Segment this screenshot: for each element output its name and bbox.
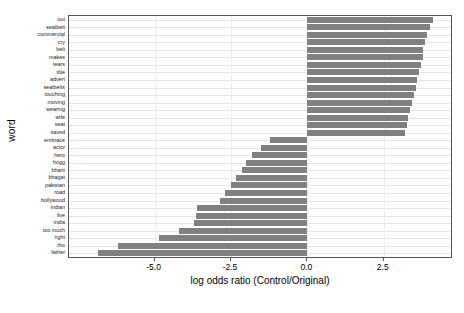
x-axis-tick-label: 2.5: [377, 262, 389, 272]
y-axis-tick-label: embrace: [18, 138, 68, 143]
y-axis-tick-label: advert: [18, 77, 68, 82]
y-axis-title-text: word: [6, 119, 17, 141]
y-axis-tick-label: tears: [18, 62, 68, 67]
bar: [246, 160, 308, 166]
bar: [236, 175, 307, 181]
y-axis-tick-label: bhagat: [18, 175, 68, 180]
y-axis-tick-label: hogg: [18, 160, 68, 165]
y-axis-tick-label: touching: [18, 92, 68, 97]
bar: [307, 100, 412, 106]
grid-line-vertical: [155, 16, 156, 257]
bar: [194, 220, 308, 226]
y-axis-tick-label: makes: [18, 55, 68, 60]
grid-line-horizontal: [69, 140, 451, 141]
bar: [307, 92, 413, 98]
y-axis-tick-label: hero: [18, 153, 68, 158]
y-axis-tick-label: wife: [18, 115, 68, 120]
bar: [307, 32, 427, 38]
y-axis-tick-label: rho: [18, 243, 68, 248]
bar: [307, 54, 423, 60]
bar: [220, 198, 307, 204]
x-axis-tick-mark: [383, 258, 384, 261]
bar: [242, 167, 307, 173]
bar: [307, 122, 407, 128]
y-axis-tick-label: father: [18, 250, 68, 255]
y-axis-tick-label: title: [18, 70, 68, 75]
x-axis-tick-mark: [230, 258, 231, 261]
y-axis-tick-label: actor: [18, 145, 68, 150]
y-axis-tick-label: cry: [18, 40, 68, 45]
bar: [231, 182, 307, 188]
bar: [307, 24, 430, 30]
y-axis-tick-labels: outseatbeltcommercialcrybeltmakestearsti…: [18, 17, 68, 256]
y-axis-tick-label: right: [18, 235, 68, 240]
x-axis-tick-mark: [154, 258, 155, 261]
bar: [98, 250, 307, 256]
bar: [307, 17, 433, 23]
bar: [196, 213, 308, 219]
bar: [252, 152, 308, 158]
y-axis-tick-label: commercial: [18, 32, 68, 37]
y-axis-tick-label: belt: [18, 47, 68, 52]
y-axis-tick-label: bharti: [18, 168, 68, 173]
x-axis-tick-label: -2.5: [223, 262, 238, 272]
bar: [179, 228, 307, 234]
bar: [307, 69, 419, 75]
x-axis-tick-label: -5.0: [146, 262, 161, 272]
bar: [307, 47, 423, 53]
plot-area: [68, 15, 452, 258]
x-axis-ticks: -5.0-2.50.02.5: [68, 258, 452, 272]
x-axis-tick-mark: [306, 258, 307, 261]
y-axis-tick-label: pakistan: [18, 183, 68, 188]
bar: [307, 107, 410, 113]
y-axis-tick-label: live: [18, 213, 68, 218]
bar: [307, 85, 415, 91]
x-axis-title: log odds ratio (Control/Original): [68, 275, 452, 286]
bar: [307, 39, 424, 45]
y-axis-tick-label: saved: [18, 130, 68, 135]
bar: [307, 62, 421, 68]
y-axis-tick-label: seat: [18, 122, 68, 127]
bar: [118, 243, 307, 249]
bar: [307, 115, 408, 121]
bar: [307, 77, 417, 83]
y-axis-tick-label: out: [18, 17, 68, 22]
y-axis-tick-label: seatbelt: [18, 25, 68, 30]
bar: [197, 205, 307, 211]
y-axis-tick-label: too much: [18, 228, 68, 233]
y-axis-tick-label: seatbelts: [18, 85, 68, 90]
y-axis-tick-label: road: [18, 190, 68, 195]
y-axis-tick-label: bollywood: [18, 198, 68, 203]
y-axis-tick-label: india: [18, 220, 68, 225]
y-axis-tick-label: moving: [18, 100, 68, 105]
bar: [307, 130, 405, 136]
y-axis-tick-label: wearing: [18, 107, 68, 112]
y-axis-tick-label: indian: [18, 205, 68, 210]
chart-figure: word outseatbeltcommercialcrybeltmakeste…: [0, 0, 464, 313]
bar: [261, 145, 307, 151]
bar: [270, 137, 307, 143]
bar: [159, 235, 308, 241]
x-axis-tick-label: 0.0: [300, 262, 312, 272]
bar: [225, 190, 307, 196]
